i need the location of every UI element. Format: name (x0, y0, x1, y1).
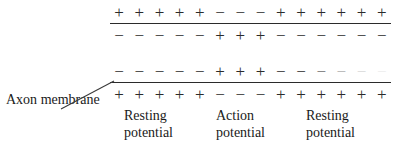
charge-plus: + (113, 4, 125, 21)
charge-plus: + (153, 4, 165, 21)
charge-minus: − (174, 63, 186, 80)
membrane-lower-line (110, 82, 391, 83)
charge-plus: + (376, 4, 388, 21)
charge-plus: + (295, 4, 307, 21)
axon-membrane-label: Axon membrane (6, 92, 100, 108)
charge-plus: + (234, 27, 246, 44)
charge-minus: − (335, 27, 347, 44)
charge-minus: − (153, 27, 165, 44)
caption-line2: potential (306, 124, 355, 141)
membrane-lower-inner-charge-row: +++++−−−++++++ (110, 86, 391, 103)
membrane-upper-inner-charge-row: −−−−−+++−−−−−− (110, 27, 391, 44)
charge-minus: − (275, 63, 287, 80)
charge-minus: − (133, 27, 145, 44)
charge-plus: + (113, 86, 125, 103)
charge-plus: + (335, 4, 347, 21)
charge-plus: + (194, 86, 206, 103)
axon-membrane-label-line2: membrane (41, 92, 100, 107)
charge-plus: + (255, 63, 267, 80)
charge-plus: + (174, 4, 186, 21)
charge-minus: − (295, 63, 307, 80)
charge-minus: − (376, 63, 388, 80)
charge-minus: − (255, 86, 267, 103)
charge-plus: + (194, 4, 206, 21)
charge-minus: − (234, 4, 246, 21)
charge-plus: + (315, 4, 327, 21)
caption-action-potential: Action potential (216, 107, 265, 141)
charge-plus: + (214, 63, 226, 80)
charge-plus: + (174, 86, 186, 103)
charge-minus: − (295, 27, 307, 44)
charge-minus: − (356, 63, 368, 80)
axon-membrane-label-line1: Axon (6, 92, 37, 107)
charge-minus: − (234, 86, 246, 103)
charge-minus: − (133, 63, 145, 80)
charge-minus: − (356, 27, 368, 44)
charge-plus: + (234, 63, 246, 80)
charge-plus: + (356, 4, 368, 21)
charge-minus: − (255, 4, 267, 21)
charge-minus: − (315, 63, 327, 80)
charge-plus: + (255, 27, 267, 44)
caption-resting-potential-left: Resting potential (124, 107, 173, 141)
charge-plus: + (214, 27, 226, 44)
charge-plus: + (315, 86, 327, 103)
charge-minus: − (214, 86, 226, 103)
charge-minus: − (194, 27, 206, 44)
caption-resting-potential-right: Resting potential (306, 107, 355, 141)
charge-minus: − (335, 63, 347, 80)
charge-plus: + (376, 86, 388, 103)
caption-line2: potential (216, 124, 265, 141)
charge-plus: + (356, 86, 368, 103)
charge-plus: + (335, 86, 347, 103)
caption-line1: Action (216, 107, 265, 124)
charge-minus: − (153, 63, 165, 80)
charge-minus: − (113, 27, 125, 44)
charge-plus: + (275, 4, 287, 21)
caption-row: Resting potential Action potential Resti… (110, 107, 391, 147)
charge-plus: + (295, 86, 307, 103)
charge-minus: − (194, 63, 206, 80)
membrane-upper-line (110, 23, 391, 24)
figure-canvas: +++++−−−++++++ −−−−−+++−−−−−− −−−−−+++−−… (0, 0, 398, 147)
membrane-lower-outer-charge-row: −−−−−+++−−−−−− (110, 63, 391, 80)
charge-plus: + (133, 4, 145, 21)
charge-minus: − (376, 27, 388, 44)
membrane-upper-outer-charge-row: +++++−−−++++++ (110, 4, 391, 21)
charge-minus: − (113, 63, 125, 80)
charge-plus: + (153, 86, 165, 103)
caption-line2: potential (124, 124, 173, 141)
charge-plus: + (133, 86, 145, 103)
charge-plus: + (275, 86, 287, 103)
charge-minus: − (275, 27, 287, 44)
caption-line1: Resting (306, 107, 355, 124)
charge-minus: − (315, 27, 327, 44)
caption-line1: Resting (124, 107, 173, 124)
charge-minus: − (174, 27, 186, 44)
charge-minus: − (214, 4, 226, 21)
